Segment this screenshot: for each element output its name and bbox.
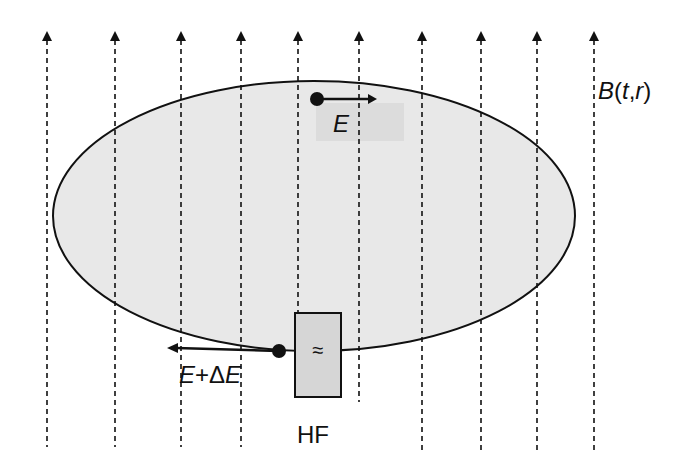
field-line-arrowhead-icon — [176, 31, 186, 41]
field-label: B(t,r) — [598, 77, 651, 104]
orbit-ellipse — [53, 81, 575, 351]
field-label-open: ( — [614, 77, 622, 104]
synchrotron-diagram: E ≈ HF E+ΔE B(t,r) — [0, 0, 694, 467]
field-line-arrowhead-icon — [417, 31, 427, 41]
field-line-arrowhead-icon — [293, 31, 303, 41]
field-line-arrowhead-icon — [354, 31, 364, 41]
hf-cavity-symbol: ≈ — [313, 339, 324, 361]
field-line-arrowhead-icon — [110, 31, 120, 41]
bottom-arrowhead-icon — [167, 343, 178, 353]
field-line-arrowhead-icon — [589, 31, 599, 41]
field-label-comma: , — [629, 77, 636, 104]
bottom-particle — [272, 344, 286, 358]
field-label-b: B — [598, 77, 614, 104]
hf-label: HF — [297, 421, 329, 448]
field-line-arrowhead-icon — [476, 31, 486, 41]
bottom-energy-e2: E — [225, 361, 242, 388]
bottom-energy-label: E+ΔE — [179, 361, 242, 388]
e-label-background — [316, 103, 404, 141]
field-line-arrowhead-icon — [42, 31, 52, 41]
top-energy-label: E — [333, 110, 350, 137]
bottom-energy-plus: + — [195, 361, 209, 388]
bottom-energy-e1: E — [179, 361, 196, 388]
field-line-arrowhead-icon — [236, 31, 246, 41]
field-label-close: ) — [643, 77, 651, 104]
top-particle — [310, 92, 324, 106]
bottom-energy-delta: Δ — [209, 361, 225, 388]
field-line-arrowhead-icon — [532, 31, 542, 41]
